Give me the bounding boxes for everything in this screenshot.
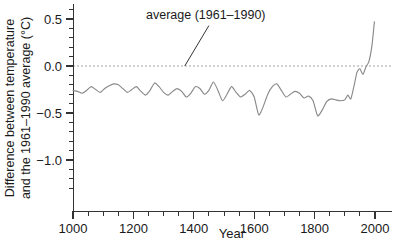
y-axis-tick-labels: 0.50.0−0.5−1.0	[36, 12, 62, 168]
annotation-leader-line	[185, 26, 209, 66]
x-tick-label: 1000	[59, 221, 88, 236]
x-axis-ticks	[73, 211, 375, 219]
x-tick-label: 1400	[179, 221, 208, 236]
y-axis-ticks	[66, 10, 74, 189]
average-annotation-label: average (1961–1990)	[146, 8, 266, 22]
temperature-series-line	[73, 22, 374, 116]
y-tick-label: 0.0	[44, 59, 62, 74]
temperature-anomaly-chart: 0.50.0−0.5−1.0 100012001400160018002000 …	[0, 0, 404, 242]
y-tick-label: −0.5	[36, 106, 62, 121]
x-axis-title: Year	[219, 226, 246, 241]
x-tick-label: 2000	[361, 221, 390, 236]
y-axis-title-line1: Difference between temperature	[3, 19, 17, 197]
x-tick-label: 1200	[119, 221, 148, 236]
y-tick-label: 0.5	[44, 12, 62, 27]
y-axis-title-line2: and the 1961–1990 average (°C)	[19, 17, 33, 199]
y-tick-label: −1.0	[36, 153, 62, 168]
x-tick-label: 1800	[300, 221, 329, 236]
chart-canvas: 0.50.0−0.5−1.0 100012001400160018002000 …	[0, 0, 404, 242]
